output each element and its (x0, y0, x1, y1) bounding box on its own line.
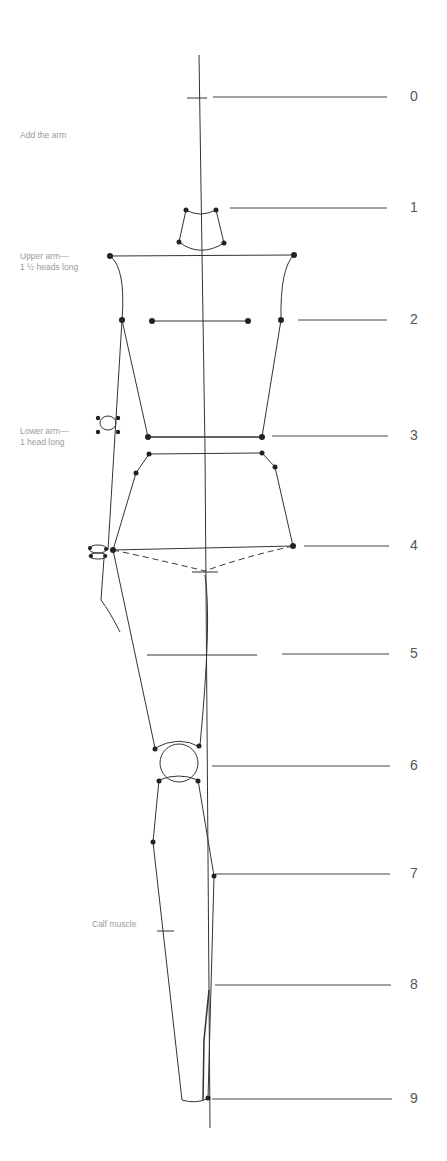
head-unit-label: 0 (410, 88, 418, 104)
head-unit-label: 6 (410, 757, 418, 773)
head-unit-label: 5 (410, 645, 418, 661)
head-unit-label: 4 (410, 537, 418, 553)
annotation-lower-arm: Lower arm— 1 head long (20, 426, 69, 448)
head-unit-label: 1 (410, 199, 418, 215)
head-unit-label: 3 (410, 427, 418, 443)
annotation-add-arm: Add the arm (20, 130, 66, 141)
shoulder-line (110, 255, 294, 256)
head-unit-label: 9 (410, 1090, 418, 1106)
arm-outline (101, 320, 122, 632)
head-unit-label: 8 (410, 976, 418, 992)
head-unit-label: 2 (410, 311, 418, 327)
annotation-upper-arm: Upper arm— 1 ½ heads long (20, 251, 78, 273)
head-unit-label: 7 (410, 865, 418, 881)
annotation-calf-muscle: Calf muscle (92, 919, 136, 930)
head-unit-guides (212, 97, 392, 1099)
proportion-figure-diagram (0, 0, 447, 1161)
center-axis (199, 55, 210, 1128)
